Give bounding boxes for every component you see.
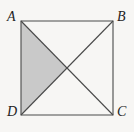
geometry-figure: A B C D <box>0 0 134 132</box>
vertex-label-b: B <box>117 10 126 24</box>
vertex-label-c: C <box>117 105 126 119</box>
geometry-canvas <box>0 0 134 132</box>
vertex-label-d: D <box>7 105 17 119</box>
vertex-label-a: A <box>7 10 16 24</box>
shaded-triangle-region <box>21 21 67 115</box>
